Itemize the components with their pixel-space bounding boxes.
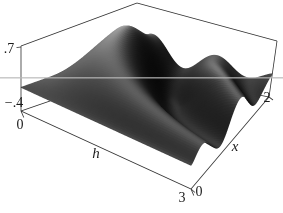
surface-plot-canvas <box>0 0 283 213</box>
x-axis-min-tick-label: 0 <box>196 185 203 199</box>
h-axis-label: h <box>92 146 100 161</box>
x-axis-max-tick-label: 2 <box>264 91 271 105</box>
h-axis-max-tick-label: 3 <box>179 191 186 205</box>
x-axis-label: x <box>232 139 239 154</box>
surface-plot-figure: .7 −.4 0 h 3 0 x 2 <box>0 0 283 213</box>
h-axis-min-tick-label: 0 <box>17 118 24 132</box>
z-axis-max-tick-label: .7 <box>4 42 15 56</box>
z-axis-min-tick-label: −.4 <box>5 96 23 110</box>
